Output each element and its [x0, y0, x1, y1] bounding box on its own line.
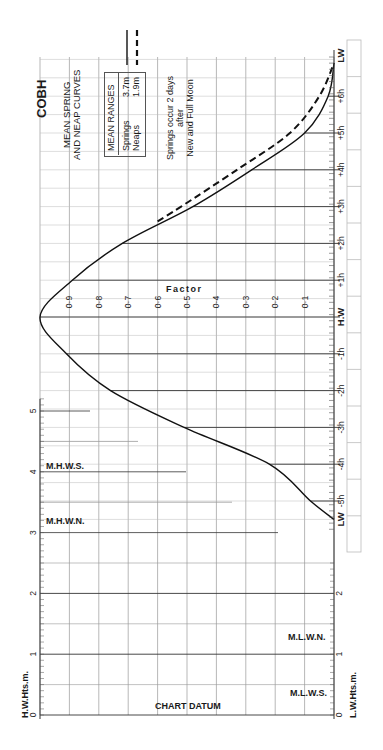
- mhws-label: M.H.W.S.: [46, 461, 84, 471]
- hw-height-tick-label: 1: [28, 652, 38, 657]
- time-tick-label: +2h: [336, 236, 346, 251]
- legend-neaps-value: 1.9m: [131, 77, 141, 97]
- time-tick-label: +5h: [336, 126, 346, 141]
- mhwn-label: M.H.W.N.: [46, 516, 85, 526]
- factor-tick-label: 0·1: [300, 296, 310, 309]
- factor-tick-label: 0·2: [270, 296, 280, 309]
- mlws-label: M.L.W.S.: [290, 688, 327, 698]
- factor-axis-label: Factor: [166, 284, 203, 294]
- time-tick-label: -3h: [336, 421, 346, 434]
- time-tick-label: LW: [335, 49, 346, 63]
- chart-title: COBH: [34, 80, 49, 118]
- factor-tick-label: 0·4: [211, 296, 221, 309]
- mlwn-label: M.L.W.N.: [288, 632, 326, 642]
- subtitle-line-2: AND NEAP CURVES: [72, 70, 82, 160]
- legend-divider: [118, 72, 119, 155]
- time-tick-label: +4h: [336, 162, 346, 177]
- hw-height-tick-label: 3: [28, 530, 38, 535]
- time-tick-label: LW: [335, 512, 346, 526]
- legend-neaps-name: Neaps: [131, 125, 141, 151]
- legend-header: MEAN RANGES: [106, 84, 116, 151]
- hw-heights-axis-label: H.W.Hts.m.: [20, 671, 30, 718]
- factor-tick-label: 0·9: [64, 296, 74, 309]
- time-tick-label: +3h: [336, 199, 346, 214]
- lw-height-tick-label: 2: [334, 591, 344, 596]
- time-tick-label: H.W: [335, 308, 346, 327]
- factor-tick-label: 0·7: [123, 296, 133, 309]
- legend-springs-name: Springs: [121, 120, 131, 151]
- hw-height-tick-label: 2: [28, 591, 38, 596]
- chart-subtitle: MEAN SPRING AND NEAP CURVES: [62, 70, 82, 160]
- time-tick-label: -1h: [336, 347, 346, 360]
- chart-datum-label: CHART DATUM: [155, 701, 221, 711]
- factor-tick-label: 0·8: [94, 296, 104, 309]
- note-line-1: Springs occur 2 days: [165, 76, 175, 160]
- time-tick-label: +1h: [336, 273, 346, 288]
- springs-note: Springs occur 2 days after New and Full …: [165, 76, 195, 160]
- lw-heights-axis-label: L.W.Hts.m.: [348, 672, 358, 718]
- factor-tick-label: 0·5: [182, 296, 192, 309]
- factor-tick-label: 0·3: [241, 296, 251, 309]
- legend-springs-value: 3.7m: [121, 77, 131, 97]
- lw-height-tick-label: 1: [334, 652, 344, 657]
- hw-height-tick-label: 5: [28, 408, 38, 413]
- time-tick-label: -5h: [336, 495, 346, 508]
- note-line-2: after: [175, 76, 185, 160]
- time-tick-label: -4h: [336, 458, 346, 471]
- note-line-3: New and Full Moon: [185, 76, 195, 160]
- time-tick-label: +6h: [336, 89, 346, 104]
- factor-tick-label: 0·6: [153, 296, 163, 309]
- hw-height-tick-label: 4: [28, 469, 38, 474]
- grid: [40, 40, 361, 715]
- time-tick-label: -2h: [336, 384, 346, 397]
- lw-height-tick-label: 0: [334, 712, 344, 717]
